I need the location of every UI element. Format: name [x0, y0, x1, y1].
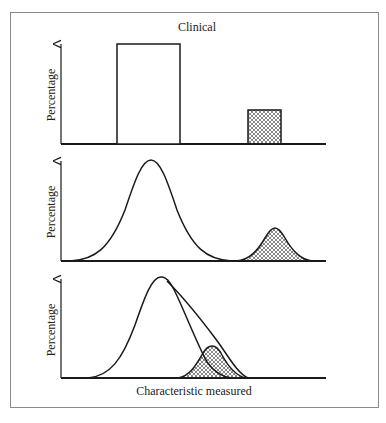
curve-diseased	[236, 228, 313, 261]
panel-overlapping: Percentage	[44, 277, 326, 378]
figure: Clinical Percentage Percentage	[0, 0, 386, 423]
curve-normal	[70, 160, 232, 261]
bar-normal	[117, 44, 180, 144]
y-axis-label: Percentage	[44, 69, 58, 122]
y-axis-label: Percentage	[44, 304, 58, 357]
bar-diseased	[248, 110, 281, 144]
panel-separated: Percentage	[44, 160, 326, 261]
x-axis-label: Characteristic measured	[136, 384, 252, 398]
curve-diseased	[178, 346, 246, 378]
figure-title: Clinical	[178, 20, 217, 34]
y-axis-label: Percentage	[44, 186, 58, 239]
panel-bars: Percentage	[44, 44, 326, 144]
figure-frame	[11, 13, 379, 408]
